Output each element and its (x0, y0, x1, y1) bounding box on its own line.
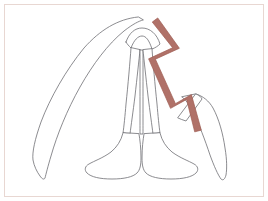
central-column-divider: Narrow sliver separating the two central… (140, 50, 143, 134)
figure-frame: Line-art outline diagram with highlighte… (0, 0, 268, 201)
diagram-canvas: Long tapered blade curving from the cent… (0, 0, 268, 201)
